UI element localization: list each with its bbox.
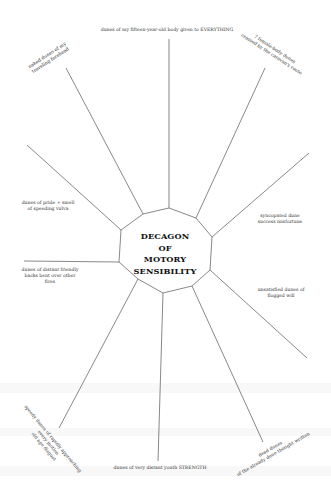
label-text: of speeding vulva [12, 206, 84, 212]
label-text: success misfortune [245, 219, 315, 225]
label-text: fires [14, 279, 86, 285]
label-left-lower: dunes of distant friendly backs bent ove… [14, 267, 86, 285]
label-text: dunes of my fifteen-year-old body given … [82, 27, 252, 33]
spoke-line [59, 279, 138, 428]
spoke-line [196, 68, 265, 218]
title-line: SENSIBILITY [115, 266, 215, 278]
label-lower-right: unsatisfied dunes of flogged will [245, 287, 317, 299]
label-text: dunes of very distant youth STRENGTH [100, 465, 220, 471]
diagram-title: DECAGON OF MOTORY SENSIBILITY [115, 231, 215, 277]
diagram-canvas: DECAGON OF MOTORY SENSIBILITY dunes of m… [0, 0, 331, 504]
label-left-upper: dunes of pride + smell of speeding vulva [12, 200, 84, 212]
spoke-line [158, 293, 163, 461]
title-line: OF [115, 243, 215, 255]
spoke-line [24, 261, 119, 262]
spoke-line [27, 145, 121, 230]
label-text: flogged will [245, 293, 317, 299]
label-bottom: dunes of very distant youth STRENGTH [100, 465, 220, 471]
spoke-line [192, 286, 263, 442]
spoke-line [66, 68, 143, 214]
title-line: MOTORY [115, 254, 215, 266]
title-line: DECAGON [115, 231, 215, 243]
label-right: syncopated dune success misfortune [245, 213, 315, 225]
spoke-line [210, 270, 307, 358]
label-top: dunes of my fifteen-year-old body given … [82, 27, 252, 33]
